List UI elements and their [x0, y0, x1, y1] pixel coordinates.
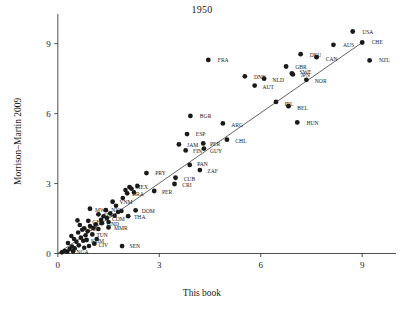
data-point-label: CHE	[372, 39, 384, 45]
data-point	[185, 132, 190, 137]
y-tick-label: 6	[46, 109, 51, 119]
data-point	[96, 212, 101, 217]
data-point	[183, 148, 188, 153]
data-point	[77, 243, 82, 248]
y-axis-label: Morrison–Martin 2009	[13, 98, 23, 185]
data-point	[76, 230, 81, 235]
data-point	[92, 241, 97, 246]
data-point-label: BGR	[200, 113, 212, 119]
data-point	[284, 64, 289, 69]
data-point-label: SEN	[130, 243, 141, 249]
data-point-label: PER	[210, 141, 221, 147]
y-tick-label: 9	[46, 39, 51, 49]
data-point	[201, 141, 206, 146]
data-point	[82, 226, 87, 231]
data-point	[274, 100, 279, 105]
data-point-label: BOL	[88, 226, 100, 232]
data-point-label: CHL	[235, 138, 247, 144]
data-point	[99, 221, 104, 226]
data-point-label: ARG	[231, 122, 243, 128]
y-tick-label: 3	[46, 179, 51, 189]
data-point-label: ZAF	[207, 168, 218, 174]
data-point	[252, 83, 257, 88]
data-point	[71, 249, 76, 254]
data-point	[188, 114, 193, 119]
x-tick-label: 0	[56, 260, 61, 270]
data-point	[304, 77, 309, 82]
data-point	[290, 72, 295, 77]
data-point-label: NLD	[273, 77, 285, 83]
data-point	[220, 121, 225, 126]
data-point	[126, 214, 131, 219]
data-point	[225, 137, 230, 142]
data-point	[360, 40, 365, 45]
data-point	[176, 142, 181, 147]
data-point	[125, 191, 130, 196]
data-point	[206, 58, 211, 63]
data-point-label: AUS	[343, 42, 354, 48]
data-point-label: ESP	[196, 131, 206, 137]
data-point	[286, 104, 291, 109]
scatter-chart: 1950 03690369USACHEAUSDEUCANNZLFRAGBRSWE…	[0, 0, 404, 310]
data-point-label: JPN	[301, 72, 310, 78]
data-point	[350, 29, 355, 34]
data-point-label: CRI	[182, 182, 191, 188]
data-point-label: THA	[134, 214, 146, 220]
data-point-label: FRA	[218, 57, 229, 63]
data-point-label: BRA	[132, 191, 144, 197]
data-point	[331, 42, 336, 47]
data-point	[86, 218, 91, 223]
data-point-label: USA	[362, 29, 373, 35]
data-point	[69, 234, 74, 239]
data-point-label: NOR	[315, 78, 327, 84]
x-tick-label: 6	[258, 260, 263, 270]
data-point	[197, 168, 202, 173]
data-point	[78, 223, 83, 228]
data-point-label: PAN	[197, 161, 208, 167]
data-point	[87, 244, 92, 249]
data-point-label: MEX	[136, 184, 148, 190]
data-point	[152, 189, 157, 194]
data-point	[133, 208, 138, 213]
data-point	[187, 163, 192, 168]
data-point-label: BEL	[297, 105, 308, 111]
data-point	[75, 218, 80, 223]
data-point-label: NGA	[76, 249, 88, 255]
data-point-label: FIN	[193, 148, 202, 154]
data-point	[367, 58, 372, 63]
data-point-label: PRY	[155, 170, 166, 176]
data-point	[120, 244, 125, 249]
data-point	[202, 146, 207, 151]
data-point-label: CAN	[326, 56, 338, 62]
data-point	[172, 182, 177, 187]
data-point-label: CIV	[98, 242, 108, 248]
data-point	[84, 238, 89, 243]
data-point-label: NZL	[379, 57, 390, 63]
data-point-label: PER	[162, 189, 173, 195]
data-point	[262, 76, 267, 81]
data-point	[173, 175, 178, 180]
data-point	[66, 241, 71, 246]
data-point-label: GUY	[210, 148, 222, 154]
data-point-label: VNM	[119, 199, 132, 205]
data-point	[144, 171, 149, 176]
data-point	[298, 52, 303, 57]
data-point-label: HUN	[306, 120, 318, 126]
data-point	[314, 55, 319, 60]
data-point	[83, 233, 88, 238]
y-tick-label: 0	[46, 249, 51, 259]
data-point	[88, 206, 93, 211]
data-point	[90, 232, 95, 237]
data-point-label: MMR	[114, 225, 128, 231]
data-point	[242, 74, 247, 79]
data-point	[110, 199, 115, 204]
plot-area: 03690369USACHEAUSDEUCANNZLFRAGBRSWEJPNDN…	[0, 0, 404, 310]
x-tick-label: 9	[360, 260, 365, 270]
data-point	[127, 185, 132, 190]
data-point-label: AUT	[262, 84, 274, 90]
data-point	[106, 225, 111, 230]
data-point	[295, 120, 300, 125]
x-axis-label: This book	[0, 288, 404, 298]
x-tick-label: 3	[157, 260, 162, 270]
